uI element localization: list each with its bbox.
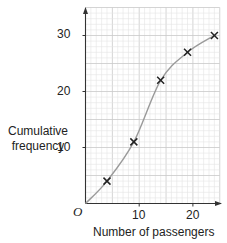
y-tick-10: 10: [57, 140, 70, 154]
y-axis-label-line1: Cumulative: [0, 124, 76, 139]
axes: [83, 7, 223, 207]
x-axis-label: Number of passengers: [93, 225, 214, 239]
x-tick-20: 20: [186, 208, 199, 222]
y-tick-30: 30: [57, 27, 70, 41]
origin-label: O: [73, 204, 82, 220]
cumulative-frequency-chart: [0, 0, 227, 243]
x-tick-10: 10: [132, 208, 145, 222]
grid: [86, 8, 220, 204]
y-tick-20: 20: [57, 84, 70, 98]
